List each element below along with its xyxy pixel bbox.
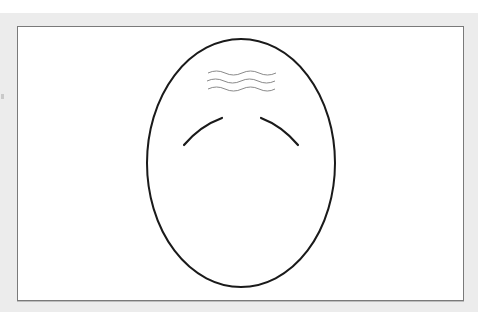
forehead-wrinkles	[207, 71, 276, 91]
wrinkle-line	[208, 71, 276, 75]
face-drawing	[0, 0, 485, 312]
wrinkle-line	[207, 79, 275, 83]
left-eyebrow	[184, 118, 222, 145]
right-eyebrow	[261, 118, 298, 145]
wrinkle-line	[208, 87, 275, 91]
face-outline	[147, 39, 335, 287]
